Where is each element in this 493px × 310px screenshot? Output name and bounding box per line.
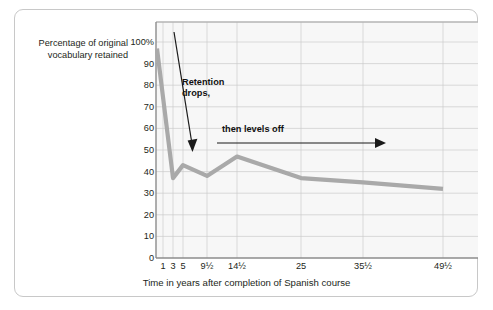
annotation-retention-line1: Retention	[182, 77, 224, 88]
y-tick-label-100: 100%	[120, 38, 154, 47]
annotation-retention-drops: Retention drops,	[182, 77, 224, 100]
y-tick-label-30: 30	[120, 189, 154, 198]
y-tick-label-80: 80	[120, 81, 154, 90]
annotation-retention-line2: drops,	[182, 88, 224, 99]
y-axis-title: Percentage of original vocabulary retain…	[28, 38, 128, 61]
x-tick-label-5: 5	[180, 261, 185, 271]
chart-figure: Percentage of original vocabulary retain…	[0, 0, 493, 310]
y-tick-label-40: 40	[120, 168, 154, 177]
y-tick-label-90: 90	[120, 60, 154, 69]
y-tick-label-70: 70	[120, 103, 154, 112]
x-tick-label-9-half: 9½	[201, 261, 214, 271]
y-tick-label-60: 60	[120, 124, 154, 133]
x-tick-label-3: 3	[170, 261, 175, 271]
y-tick-label-10: 10	[120, 232, 154, 241]
x-tick-label-35-half: 35½	[354, 261, 372, 271]
y-tick-label-20: 20	[120, 211, 154, 220]
y-tick-label-0: 0	[120, 254, 154, 263]
x-tick-label-49-half: 49½	[434, 261, 452, 271]
annotation-then-levels-off: then levels off	[222, 124, 284, 135]
x-tick-label-14-half: 14½	[228, 261, 246, 271]
y-tick-label-50: 50	[120, 146, 154, 155]
x-axis-title: Time in years after completion of Spanis…	[0, 277, 493, 288]
x-tick-label-25: 25	[296, 261, 306, 271]
x-tick-label-1: 1	[160, 261, 165, 271]
